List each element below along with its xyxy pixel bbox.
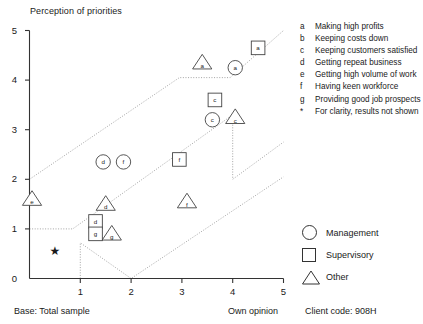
client-code: Client code: 908H: [305, 306, 377, 316]
scatter-plot-svg: acdfacfdgacedfg★: [0, 0, 300, 300]
marker-other-d: d: [96, 196, 115, 211]
legend-code-key: a: [300, 22, 315, 33]
marker-supervisory-f: f: [173, 153, 187, 167]
square-glyph: [302, 248, 316, 262]
x-tick-label-4: 4: [226, 286, 240, 297]
marker-supervisory-c: c: [208, 93, 222, 107]
legend-code-row-f: fHaving keen workforce: [300, 82, 423, 93]
marker-label: d: [94, 218, 98, 225]
marker-management-d: d: [96, 155, 110, 169]
marker-supervisory-d: d: [89, 215, 103, 229]
y-tick-label-4: 4: [8, 74, 22, 85]
marker-management-f: f: [116, 155, 130, 169]
legend-code-key: *: [300, 107, 315, 118]
marker-other-g: g: [102, 225, 121, 240]
marker-label: c: [234, 117, 237, 124]
legend-shape-row-square: Supervisory: [300, 244, 423, 266]
plot-area: acdfacfdgacedfg★ 01234512345: [0, 0, 300, 300]
marker-label: f: [123, 158, 125, 165]
marker-label: d: [101, 158, 105, 165]
marker-label: d: [104, 203, 108, 210]
x-tick-label-3: 3: [175, 286, 189, 297]
legend-code-row-g: gProviding good job prospects: [300, 95, 423, 106]
marker-other-e: e: [22, 191, 41, 206]
marker-supervisory-g: g: [89, 227, 103, 241]
x-tick-label-5: 5: [277, 286, 291, 297]
legend-code-text: Providing good job prospects: [315, 95, 423, 106]
triangle-icon: [300, 268, 326, 286]
marker-management-a: a: [228, 60, 242, 74]
legend-code-text: For clarity, results not shown: [315, 107, 423, 118]
legend-code-text: Having keen workforce: [315, 82, 423, 93]
legend-code-row-b: bKeeping costs down: [300, 34, 423, 45]
y-tick-label-0: 0: [8, 273, 22, 284]
legend-code-text: Getting high volume of work: [315, 70, 423, 81]
legend-code-list: aMaking high profitsbKeeping costs downc…: [300, 22, 423, 119]
y-tick-label-5: 5: [8, 25, 22, 36]
legend-shape-list: ManagementSupervisoryOther: [300, 222, 423, 288]
legend-code-row-d: dGetting repeat business: [300, 58, 423, 69]
legend-code-row-star: *For clarity, results not shown: [300, 107, 423, 118]
marker-label: g: [94, 230, 98, 237]
marker-other-a: a: [193, 54, 212, 69]
legend-code-key: e: [300, 70, 315, 81]
marker-label: a: [200, 62, 204, 69]
legend-code-key: g: [300, 95, 315, 106]
star-marker: ★: [50, 244, 61, 258]
legend-shape-label: Supervisory: [326, 250, 423, 260]
marker-label: g: [110, 233, 114, 240]
legend-shape-row-triangle: Other: [300, 266, 423, 288]
square-icon: [300, 246, 326, 264]
legend-code-row-e: eGetting high volume of work: [300, 70, 423, 81]
legend-code-text: Making high profits: [315, 22, 423, 33]
marker-other-c: c: [226, 109, 245, 124]
legend-code-text: Getting repeat business: [315, 58, 423, 69]
marker-label: c: [213, 96, 216, 103]
marker-supervisory-a: a: [251, 41, 265, 55]
legend-code-text: Keeping customers satisfied: [315, 46, 423, 57]
x-axis-title: Own opinion: [228, 306, 278, 316]
y-tick-label-3: 3: [8, 124, 22, 135]
marker-other-f: f: [177, 193, 196, 208]
band-middle-band: [30, 115, 284, 229]
legend-code-text: Keeping costs down: [315, 34, 423, 45]
legend-code-key: c: [300, 46, 315, 57]
y-tick-label-2: 2: [8, 173, 22, 184]
marker-management-c: c: [205, 113, 219, 127]
chart-page: Perception of priorities acdfacfdgacedfg…: [0, 0, 423, 324]
triangle-glyph: [301, 269, 321, 286]
marker-label: a: [234, 64, 238, 71]
circle-glyph: [302, 225, 317, 240]
legend-code-row-c: cKeeping customers satisfied: [300, 46, 423, 57]
marker-label: a: [256, 44, 260, 51]
legend-code-key: f: [300, 82, 315, 93]
marker-label: c: [211, 116, 214, 123]
legend-shape-label: Other: [326, 272, 423, 282]
legend-code-key: d: [300, 58, 315, 69]
x-tick-label-2: 2: [124, 286, 138, 297]
legend-code-row-a: aMaking high profits: [300, 22, 423, 33]
base-note: Base: Total sample: [14, 306, 90, 316]
legend-shape-label: Management: [326, 228, 423, 238]
x-tick-label-1: 1: [73, 286, 87, 297]
legend-shape-row-circle: Management: [300, 222, 423, 244]
circle-icon: [300, 224, 326, 242]
y-tick-label-1: 1: [8, 223, 22, 234]
band-upper-band: [30, 31, 284, 180]
marker-label: e: [30, 198, 34, 205]
legend-code-key: b: [300, 34, 315, 45]
marker-label: f: [178, 156, 180, 163]
marker-label: f: [186, 201, 188, 208]
